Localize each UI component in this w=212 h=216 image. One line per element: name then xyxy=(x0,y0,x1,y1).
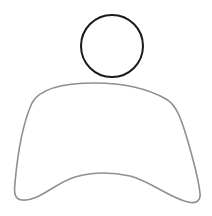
user-silhouette-icon xyxy=(0,0,212,216)
head-outline xyxy=(81,15,143,77)
avatar-figure xyxy=(0,0,212,216)
body-outline xyxy=(15,83,201,203)
